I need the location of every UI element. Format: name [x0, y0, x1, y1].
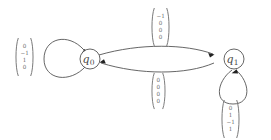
transition-label-loop-q1-values: 0 1 −1 1	[225, 99, 236, 139]
transition-q0-to-q1-path	[99, 46, 213, 55]
transition-label-q1-to-q0: 0 0 0 0	[150, 72, 167, 110]
vector-entry: 0	[23, 43, 27, 50]
state-q0-subscript: 0	[90, 58, 95, 67]
state-q0-letter: q	[83, 53, 90, 66]
right-paren-icon	[236, 99, 241, 139]
state-q1-subscript: 1	[234, 58, 239, 67]
state-q1-letter: q	[227, 53, 234, 66]
vector-entry: 0	[157, 77, 161, 84]
vector-entry: 0	[159, 34, 163, 41]
right-paren-icon	[162, 72, 167, 110]
vector-entry: 0	[23, 64, 27, 71]
right-paren-icon	[30, 37, 35, 77]
state-transition-diagram: q0 q1 0 −1 1 0 −1	[0, 0, 271, 140]
transition-label-q0-to-q1-values: −1 0 0 0	[155, 7, 166, 47]
transition-label-loop-q0: 0 −1 1 0	[14, 37, 35, 77]
vector-entry: 0	[157, 91, 161, 98]
vector-entry: 0	[159, 27, 163, 34]
vector-entry: −1	[227, 119, 235, 126]
vector-entry: −1	[157, 13, 165, 20]
vector-entry: 1	[229, 126, 233, 133]
transition-q0-to-q1	[99, 46, 215, 57]
transition-q1-to-q0	[99, 59, 214, 72]
transition-label-q0-to-q1: −1 0 0 0	[150, 7, 171, 47]
state-q0[interactable]: q0	[80, 49, 100, 69]
right-paren-icon	[166, 7, 171, 47]
transition-q1-to-q0-path	[101, 63, 214, 72]
vector-entry: 0	[229, 105, 233, 112]
transition-label-loop-q0-values: 0 −1 1 0	[19, 37, 30, 77]
vector-entry: 0	[157, 84, 161, 91]
vector-entry: −1	[21, 50, 29, 57]
state-q1[interactable]: q1	[224, 49, 244, 69]
transition-loop-q1-arrowhead	[232, 69, 239, 73]
vector-entry: 0	[159, 20, 163, 27]
vector-entry: 1	[229, 112, 233, 119]
transition-label-loop-q1: 0 1 −1 1	[220, 99, 241, 139]
vector-entry: 0	[157, 98, 161, 105]
vector-entry: 1	[23, 57, 27, 64]
